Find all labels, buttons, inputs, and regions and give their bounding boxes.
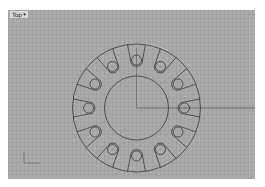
slot-hole — [173, 79, 183, 89]
slot-hole — [90, 127, 100, 137]
slot-hole — [108, 145, 118, 155]
axis-widget-icon — [24, 152, 40, 163]
slot-hole — [173, 127, 183, 137]
slot-outline — [73, 99, 95, 117]
slot-hole — [90, 79, 100, 89]
top-viewport[interactable]: Top ▾ — [8, 10, 255, 179]
cad-drawing[interactable] — [8, 10, 255, 179]
slot-hole — [108, 61, 118, 71]
slot-hole — [156, 61, 166, 71]
slot-hole — [84, 103, 94, 113]
slot-hole — [156, 145, 166, 155]
slot-outline — [128, 150, 146, 172]
slot-hole — [132, 151, 142, 161]
world-axis-lines — [137, 48, 256, 108]
